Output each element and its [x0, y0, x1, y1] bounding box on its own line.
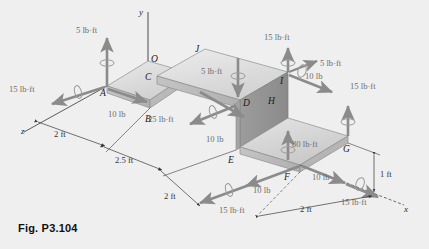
label-force-D-E: 10 lb [206, 134, 223, 144]
label-couple-F-z: 15 lb·ft [219, 205, 245, 215]
dimension-lines: 2 ft 2.5 ft 2 ft 2 ft 1 ft [38, 108, 392, 216]
couple-swirl-F-z [224, 183, 234, 198]
rigid-body-plate [107, 49, 348, 172]
point-label-O: O [151, 54, 158, 64]
label-dim-1ft: 1 ft [380, 169, 392, 179]
label-couple-D-z: 25 lb·ft [148, 114, 174, 124]
y-axis-label: y [138, 7, 143, 17]
label-force-A-B: 10 lb [108, 109, 125, 119]
z-axis-label: z [20, 126, 25, 136]
label-force-I-H: 10 lb [305, 71, 322, 81]
label-couple-right-up: 15 lb·ft [350, 81, 376, 91]
z-axis-line [24, 86, 107, 132]
coordinate-axes: y x z [20, 7, 408, 214]
label-force-G-x: 10 lb [312, 172, 329, 182]
label-couple-F-up: 80 lb·ft [292, 139, 318, 149]
point-label-A: A [99, 88, 106, 98]
x-axis-label: x [403, 204, 408, 214]
label-couple-A-up: 5 lb·ft [76, 25, 98, 35]
label-dim-2p5ft: 2.5 ft [115, 155, 134, 165]
point-label-C: C [145, 72, 152, 82]
label-dim-2ft-left: 2 ft [54, 129, 66, 139]
dim-line-2ft-left [38, 122, 105, 146]
arrow-force-F-left [246, 166, 300, 186]
point-label-H: H [267, 96, 276, 106]
statics-figure-diagram: y x z 5 lb·ft 15 lb·ft 10 lb 5 lb·ft 25 … [0, 0, 429, 249]
load-vectors: 5 lb·ft 15 lb·ft 10 lb 5 lb·ft 25 lb·ft … [9, 25, 378, 215]
label-dim-2ft-mid: 2 ft [164, 191, 176, 201]
body-face-d-edge-strip [236, 101, 240, 150]
label-couple-I-up: 15 lb·ft [264, 32, 290, 42]
dim-ext-1ft-top [348, 143, 380, 155]
figure-container: y x z 5 lb·ft 15 lb·ft 10 lb 5 lb·ft 25 … [0, 0, 429, 249]
point-label-E: E [227, 155, 234, 165]
dim-ext-E [163, 150, 236, 176]
label-couple-G-x: 15 lb·ft [341, 197, 367, 207]
point-label-G: G [343, 144, 350, 154]
point-label-D: D [242, 98, 250, 108]
label-couple-A-z: 15 lb·ft [9, 84, 35, 94]
figure-caption: Fig. P3.104 [18, 222, 78, 234]
label-couple-I-diag: 5 lb·ft [320, 58, 342, 68]
point-label-B: B [145, 114, 151, 124]
label-force-F-left: 10 lb [253, 185, 270, 195]
label-dim-2ft-right: 2 ft [300, 204, 312, 214]
label-couple-D-down: 5 lb·ft [201, 66, 223, 76]
arrow-couple-F-z [200, 184, 252, 203]
arrow-couple-G-x [346, 184, 378, 197]
point-label-F: F [283, 172, 290, 182]
